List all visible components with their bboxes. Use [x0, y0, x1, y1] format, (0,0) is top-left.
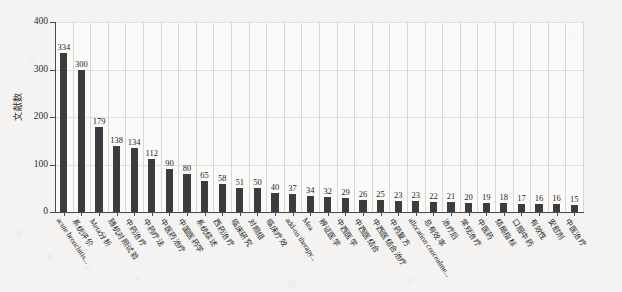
gridline-vertical [565, 22, 566, 212]
gridline-vertical [354, 22, 355, 212]
gridline-vertical [477, 22, 478, 212]
bar [535, 204, 542, 212]
gridline-vertical [125, 22, 126, 212]
bar [518, 204, 525, 212]
x-tick-mark [205, 212, 206, 216]
bar-value-label: 300 [67, 60, 95, 69]
bar [201, 181, 208, 212]
x-tick-mark [345, 212, 346, 216]
bar [483, 203, 490, 212]
bar [359, 200, 366, 212]
gridline-vertical [460, 22, 461, 212]
bar [430, 202, 437, 212]
gridline-vertical [213, 22, 214, 212]
x-tick-mark [169, 212, 170, 216]
bar [307, 196, 314, 212]
x-tick-mark [398, 212, 399, 216]
gridline-vertical [583, 22, 584, 212]
x-tick-label: 中医治疗 [563, 216, 590, 248]
gridline-vertical [548, 22, 549, 212]
bar-value-label: 179 [85, 117, 113, 126]
x-tick-mark [521, 212, 522, 216]
bar-chart: 0100200300400 文献数 3343001791381341129080… [0, 0, 622, 292]
gridline-vertical [372, 22, 373, 212]
bar [236, 188, 243, 212]
x-tick-mark [152, 212, 153, 216]
gridline-vertical [513, 22, 514, 212]
x-tick-mark [469, 212, 470, 216]
gridline-vertical [319, 22, 320, 212]
bar-value-label: 134 [120, 138, 148, 147]
y-tick-label: 400 [14, 17, 48, 27]
x-tick-mark [117, 212, 118, 216]
x-tick-mark [275, 212, 276, 216]
bar [166, 169, 173, 212]
bar [412, 201, 419, 212]
x-tick-mark [381, 212, 382, 216]
x-tick-mark [486, 212, 487, 216]
y-tick-label: 300 [14, 65, 48, 75]
y-tick-mark [50, 117, 55, 118]
bar [78, 70, 85, 213]
x-tick-mark [451, 212, 452, 216]
x-tick-mark [257, 212, 258, 216]
x-tick-mark [187, 212, 188, 216]
x-tick-mark [240, 212, 241, 216]
bar [95, 127, 102, 212]
bar [60, 53, 67, 212]
bar [447, 202, 454, 212]
bar [289, 194, 296, 212]
y-tick-mark [50, 70, 55, 71]
bar-value-label: 334 [50, 43, 78, 52]
y-tick-label: 0 [14, 207, 48, 217]
bar [271, 193, 278, 212]
bar-value-label: 15 [560, 195, 588, 204]
x-tick-mark [64, 212, 65, 216]
x-tick-mark [574, 212, 575, 216]
x-tick-mark [539, 212, 540, 216]
bar [113, 146, 120, 212]
gridline-vertical [178, 22, 179, 212]
x-tick-mark [310, 212, 311, 216]
x-tick-mark [416, 212, 417, 216]
x-tick-mark [433, 212, 434, 216]
x-tick-mark [222, 212, 223, 216]
gridline-vertical [389, 22, 390, 212]
bar [342, 198, 349, 212]
gridline-vertical [161, 22, 162, 212]
x-tick-mark [363, 212, 364, 216]
x-tick-mark [328, 212, 329, 216]
gridline-vertical [196, 22, 197, 212]
x-tick-mark [557, 212, 558, 216]
y-axis-title: 文献数 [11, 77, 24, 137]
x-tick-mark [293, 212, 294, 216]
bar [571, 205, 578, 212]
y-tick-mark [50, 212, 55, 213]
gridline-vertical [143, 22, 144, 212]
gridline-vertical [530, 22, 531, 212]
y-tick-mark [50, 22, 55, 23]
y-tick-label: 100 [14, 160, 48, 170]
x-tick-mark [134, 212, 135, 216]
x-tick-label: Mea [301, 216, 316, 232]
x-tick-mark [504, 212, 505, 216]
x-tick-mark [81, 212, 82, 216]
bar [395, 201, 402, 212]
gridline-vertical [425, 22, 426, 212]
bar [377, 200, 384, 212]
bar [500, 203, 507, 212]
x-tick-mark [99, 212, 100, 216]
bar [183, 174, 190, 212]
bar [254, 188, 261, 212]
y-tick-mark [50, 165, 55, 166]
bar-value-label: 112 [138, 149, 166, 158]
gridline-vertical [442, 22, 443, 212]
bar [553, 204, 560, 212]
bar [219, 184, 226, 212]
bar [465, 203, 472, 213]
gridline-vertical [407, 22, 408, 212]
gridline-vertical [495, 22, 496, 212]
bar [324, 197, 331, 212]
gridline-vertical [337, 22, 338, 212]
bar [148, 159, 155, 212]
